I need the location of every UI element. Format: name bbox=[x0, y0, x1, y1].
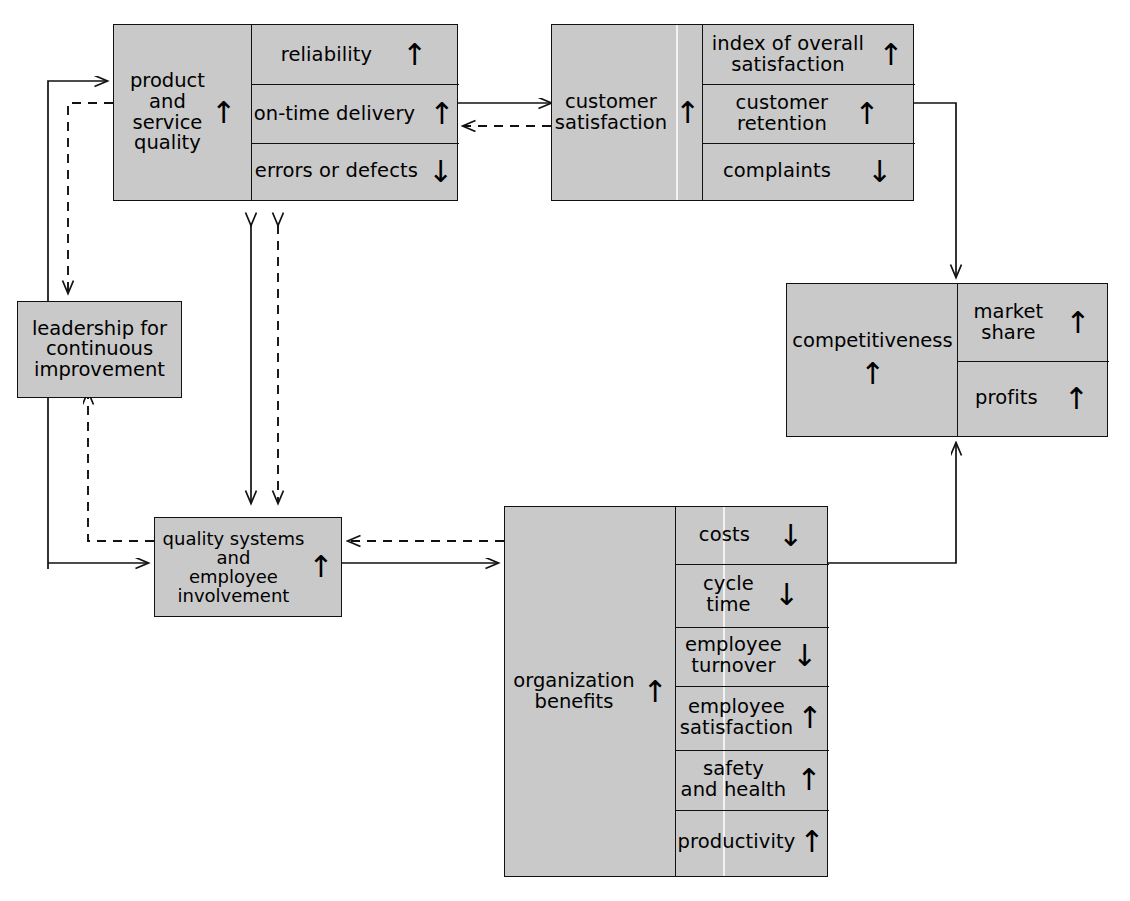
metric-safety-and-health: safety and health ↑ bbox=[676, 750, 826, 809]
node-customer-satisfaction-label-cell: customer satisfaction ↑ bbox=[554, 27, 701, 198]
metric-profits-label: profits bbox=[975, 388, 1038, 409]
node-quality-systems-label: quality systems and employee involvement bbox=[163, 529, 305, 605]
metric-market-share-trend-icon: ↑ bbox=[1065, 308, 1090, 338]
wire-customer-to-competitiveness bbox=[914, 103, 956, 277]
metric-complaints-trend-icon: ↓ bbox=[867, 157, 892, 187]
node-leadership-label-cell: leadership for continuous improvement bbox=[17, 301, 182, 398]
node-organization-benefits-label: organization benefits bbox=[513, 671, 634, 712]
metric-costs-label: costs bbox=[699, 525, 750, 546]
wire-quality-to-leadership bbox=[88, 392, 154, 541]
node-quality-systems-label-cell: quality systems and employee involvement… bbox=[154, 517, 342, 617]
metric-market-share-label: market share bbox=[974, 302, 1044, 343]
node-competitiveness-label: competitiveness bbox=[792, 331, 952, 352]
metric-employee-turnover: employee turnover ↓ bbox=[676, 627, 826, 685]
metric-customer-retention: customer retention ↑ bbox=[703, 85, 912, 143]
metric-reliability: reliability ↑ bbox=[252, 26, 456, 84]
node-product-quality-label-cell: product and service quality ↑ bbox=[116, 27, 250, 198]
node-product-quality-label: product and service quality bbox=[130, 71, 205, 154]
metric-reliability-trend-icon: ↑ bbox=[402, 40, 427, 70]
metric-complaints-label: complaints bbox=[723, 161, 831, 182]
metric-costs: costs ↓ bbox=[676, 508, 826, 563]
node-product-quality-trend-icon: ↑ bbox=[211, 98, 236, 128]
wire-product-to-leadership bbox=[68, 103, 113, 293]
metric-costs-trend-icon: ↓ bbox=[778, 521, 803, 551]
metric-index-of-overall-satisfaction-label: index of overall satisfaction bbox=[712, 34, 864, 75]
metric-on-time-delivery-label: on-time delivery bbox=[254, 104, 416, 125]
metric-productivity-label: productivity bbox=[678, 832, 796, 853]
metric-employee-satisfaction-trend-icon: ↑ bbox=[797, 703, 822, 733]
metric-productivity: productivity ↑ bbox=[676, 810, 826, 874]
metric-index-of-overall-satisfaction: index of overall satisfaction ↑ bbox=[703, 26, 912, 84]
metric-cycle-time: cycle time ↓ bbox=[676, 564, 826, 626]
metric-customer-retention-label: customer retention bbox=[736, 93, 829, 134]
metric-reliability-label: reliability bbox=[281, 45, 372, 66]
node-quality-systems-trend-icon: ↑ bbox=[308, 552, 333, 582]
metric-index-of-overall-satisfaction-trend-icon: ↑ bbox=[878, 40, 903, 70]
metric-employee-turnover-label: employee turnover bbox=[685, 635, 782, 676]
node-organization-benefits-trend-icon: ↑ bbox=[643, 677, 668, 707]
metric-errors-or-defects-trend-icon: ↓ bbox=[428, 157, 453, 187]
metric-errors-or-defects: errors or defects ↓ bbox=[252, 144, 456, 199]
metric-profits-trend-icon: ↑ bbox=[1064, 384, 1089, 414]
metric-employee-satisfaction: employee satisfaction ↑ bbox=[676, 686, 826, 749]
metric-cycle-time-trend-icon: ↓ bbox=[774, 580, 799, 610]
metric-employee-turnover-trend-icon: ↓ bbox=[792, 641, 817, 671]
metric-profits: profits ↑ bbox=[958, 362, 1106, 435]
node-competitiveness-trend-icon: ↑ bbox=[860, 359, 885, 389]
metric-complaints: complaints ↓ bbox=[703, 144, 912, 199]
wire-benefits-to-competitiveness bbox=[828, 443, 956, 563]
metric-cycle-time-label: cycle time bbox=[703, 574, 754, 615]
metric-employee-satisfaction-label: employee satisfaction bbox=[680, 697, 793, 738]
metric-safety-and-health-trend-icon: ↑ bbox=[796, 765, 821, 795]
node-leadership-label: leadership for continuous improvement bbox=[32, 319, 167, 381]
node-organization-benefits-label-cell: organization benefits ↑ bbox=[507, 509, 674, 874]
metric-productivity-trend-icon: ↑ bbox=[799, 827, 824, 857]
metric-market-share: market share ↑ bbox=[958, 285, 1106, 360]
node-customer-satisfaction-label: customer satisfaction bbox=[555, 92, 667, 133]
diagram-canvas: product and service quality ↑ reliabilit… bbox=[0, 0, 1130, 901]
metric-safety-and-health-label: safety and health bbox=[681, 759, 787, 800]
metric-errors-or-defects-label: errors or defects bbox=[255, 161, 418, 182]
node-customer-satisfaction-trend-icon: ↑ bbox=[675, 98, 700, 128]
node-competitiveness-label-cell: competitiveness ↑ bbox=[789, 286, 956, 434]
metric-on-time-delivery: on-time delivery ↑ bbox=[252, 85, 456, 143]
metric-on-time-delivery-trend-icon: ↑ bbox=[429, 99, 454, 129]
metric-customer-retention-trend-icon: ↑ bbox=[854, 99, 879, 129]
